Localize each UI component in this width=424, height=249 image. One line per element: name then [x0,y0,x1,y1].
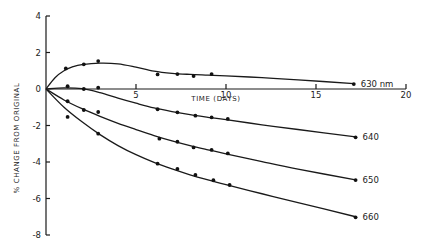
data-point [354,135,358,139]
y-tick-label: 0 [36,84,41,94]
data-point [156,73,160,77]
x-tick-label: 5 [133,90,138,100]
data-point [96,132,100,136]
data-point [156,162,160,166]
data-point [354,215,358,219]
series-label: 650 [363,175,379,185]
data-point [176,72,180,76]
x-axis-title: TIME (DAYS) [190,95,240,103]
data-point [82,87,86,91]
data-point [210,72,214,76]
data-point [156,107,160,111]
data-point [176,167,180,171]
data-point [354,178,358,182]
data-point [210,115,214,119]
data-point [194,114,198,118]
y-tick-label: -4 [33,157,41,167]
series-labels: 630 nm640650660 [361,79,394,222]
y-tick-label: 2 [36,48,41,58]
series-label: 640 [363,132,379,142]
data-point [96,59,100,63]
y-tick-label: -2 [33,121,41,131]
data-point [66,84,70,88]
series-label: 630 nm [361,79,394,89]
line-chart: 420-2-4-6-85101520 630 nm640650660 TIME … [0,0,424,249]
axes: 420-2-4-6-85101520 [33,11,412,240]
data-point [66,115,70,119]
y-axis-title: % CHANGE FROM ORIGINAL [13,83,21,194]
y-tick-label: -6 [33,194,41,204]
data-point [192,146,196,150]
x-tick-label: 20 [401,90,412,100]
data-point [192,74,196,78]
data-point [176,140,180,144]
data-point [96,110,100,114]
data-point [82,62,86,66]
x-tick-label: 15 [311,90,322,100]
curve-630-nm [46,63,354,89]
data-point [194,173,198,177]
data-point [82,108,86,112]
data-point [64,66,68,70]
data-point [66,99,70,103]
data-point [226,117,230,121]
data-point [158,137,162,141]
curve-660 [46,89,356,217]
curves [46,63,356,217]
data-point [226,152,230,156]
y-tick-label: -8 [33,230,41,240]
data-point [212,178,216,182]
data-point [352,82,356,86]
series-label: 660 [363,212,379,222]
data-point [176,110,180,114]
y-tick-label: 4 [36,11,41,21]
data-point [96,86,100,90]
data-point [228,183,232,187]
data-point [210,148,214,152]
